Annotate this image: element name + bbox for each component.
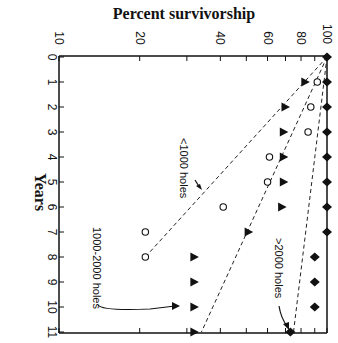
percent-tick-label: 10 — [52, 31, 66, 45]
annotations: <1000 holes 1000-2000 holes >2000 holes — [91, 138, 289, 330]
diamond-marker — [322, 228, 332, 237]
circle-marker — [220, 204, 226, 210]
year-tick-label: 9 — [45, 279, 59, 286]
year-tick-label: 0 — [45, 54, 59, 61]
diamond-marker — [310, 253, 320, 262]
diamond-marker — [322, 53, 332, 62]
diamond-marker — [322, 203, 332, 212]
diamond-marker — [310, 303, 320, 312]
year-tick-label: 10 — [45, 300, 59, 314]
diamond-marker — [322, 128, 332, 137]
year-tick-label: 8 — [45, 254, 59, 261]
triangle-marker — [190, 303, 199, 312]
year-tick-label: 7 — [45, 229, 59, 236]
survivorship-chart: Percent survivorship 1020406080100012345… — [0, 0, 338, 343]
diamond-marker — [322, 153, 332, 162]
diamond-marker — [310, 278, 320, 287]
percent-tick-label: 80 — [294, 31, 308, 45]
arrowhead-mid — [172, 302, 180, 310]
years-axis-label: Years — [32, 173, 49, 211]
triangle-marker — [190, 328, 199, 337]
triangle-marker — [278, 203, 287, 212]
triangle-marker — [190, 278, 199, 287]
triangle-marker — [281, 103, 290, 112]
arrow-gt2000 — [279, 306, 287, 326]
circle-marker — [314, 79, 320, 85]
percent-tick-label: 20 — [133, 31, 147, 45]
data-points — [142, 53, 332, 337]
year-tick-label: 3 — [45, 129, 59, 136]
arrowhead-gt2000 — [283, 322, 289, 330]
circle-marker — [308, 104, 314, 110]
chart-title: Percent survivorship — [113, 5, 255, 23]
percent-tick-label: 100 — [320, 24, 334, 44]
arrow-mid — [98, 305, 175, 310]
triangle-marker — [190, 253, 199, 262]
circle-marker — [142, 229, 148, 235]
fit-line — [145, 57, 327, 257]
year-tick-label: 1 — [45, 79, 59, 86]
triangle-marker — [280, 178, 289, 187]
fit-lines — [145, 57, 327, 332]
circle-marker — [142, 254, 148, 260]
annotation-lt1000: <1000 holes — [178, 138, 190, 199]
annotation-gt2000: >2000 holes — [273, 238, 285, 299]
year-tick-label: 11 — [45, 326, 59, 339]
triangle-marker — [280, 153, 289, 162]
triangle-marker — [245, 228, 254, 237]
fit-line — [201, 57, 327, 332]
percent-tick-label: 60 — [261, 31, 275, 45]
circle-marker — [266, 154, 272, 160]
arrowhead-lt1000 — [196, 184, 202, 190]
annotation-mid: 1000-2000 holes — [91, 227, 103, 309]
circle-marker — [264, 179, 270, 185]
year-tick-label: 2 — [45, 104, 59, 111]
triangle-marker — [301, 78, 310, 87]
diamond-marker — [322, 103, 332, 112]
fit-line — [294, 57, 327, 332]
year-tick-label: 4 — [45, 154, 59, 161]
circle-marker — [305, 129, 311, 135]
triangle-marker — [280, 128, 289, 137]
diamond-marker — [322, 178, 332, 187]
percent-tick-label: 40 — [213, 31, 227, 45]
